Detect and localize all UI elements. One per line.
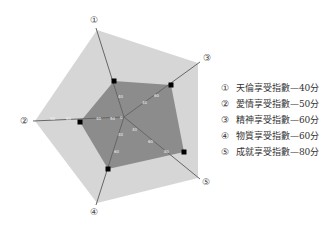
legend-number: ② <box>221 96 233 112</box>
svg-text:50: 50 <box>110 116 116 121</box>
legend-text: 天倫享受指數—40分 <box>236 83 319 93</box>
svg-text:40: 40 <box>142 100 148 105</box>
svg-text:60: 60 <box>114 149 120 154</box>
marker-4 <box>106 167 111 172</box>
svg-text:80: 80 <box>164 149 170 154</box>
svg-text:60: 60 <box>148 139 154 144</box>
svg-text:60: 60 <box>154 93 160 98</box>
legend-item: ⑤ 成就享受指數—80分 <box>221 144 319 160</box>
legend-item: ② 愛情享受指數—50分 <box>221 96 319 112</box>
svg-text:40: 40 <box>118 132 124 137</box>
axis-label-2: ② <box>20 116 28 126</box>
legend-item: ① 天倫享受指數—40分 <box>221 80 319 96</box>
legend-text: 成就享受指數—80分 <box>236 147 319 157</box>
marker-5 <box>182 150 187 155</box>
legend-number: ⑤ <box>221 144 233 160</box>
axis-label-1: ① <box>90 15 98 25</box>
marker-2 <box>78 120 83 125</box>
legend-text: 愛情享受指數—50分 <box>236 99 319 109</box>
svg-text:40: 40 <box>96 116 102 121</box>
legend-text: 物質享受指數—60分 <box>236 131 319 141</box>
legend: ① 天倫享受指數—40分 ② 愛情享受指數—50分 ③ 精神享受指數—60分 ④… <box>221 80 319 160</box>
svg-text:80: 80 <box>66 116 72 121</box>
legend-number: ① <box>221 80 233 96</box>
marker-1 <box>112 79 117 84</box>
svg-text:40: 40 <box>132 127 138 132</box>
legend-item: ④ 物質享受指數—60分 <box>221 128 319 144</box>
legend-item: ③ 精神享受指數—60分 <box>221 112 319 128</box>
axis-label-3: ③ <box>203 53 211 63</box>
svg-text:90: 90 <box>50 116 56 121</box>
svg-text:40: 40 <box>118 94 124 99</box>
marker-3 <box>169 83 174 88</box>
legend-text: 精神享受指數—60分 <box>236 115 319 125</box>
legend-number: ④ <box>221 128 233 144</box>
axis-label-4: ④ <box>90 207 98 217</box>
axis-label-5: ⑤ <box>202 177 210 187</box>
legend-number: ③ <box>221 112 233 128</box>
